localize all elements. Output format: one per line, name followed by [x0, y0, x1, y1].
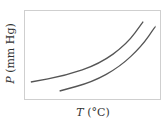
x-axis-label: T (°C)	[60, 106, 126, 119]
series-layer	[31, 22, 156, 91]
axes-frame	[25, 11, 161, 100]
curve-lower	[60, 26, 156, 91]
curve-upper	[31, 22, 143, 82]
y-axis-label: P (mm Hg)	[4, 19, 17, 89]
